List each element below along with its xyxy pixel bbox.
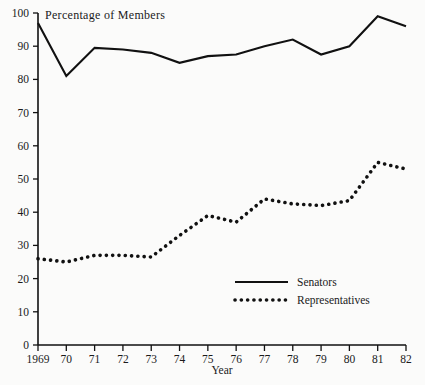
legend: Senators Representatives (235, 276, 370, 307)
x-tick-label: 71 (89, 353, 101, 365)
y-axis-ticks: 0102030405060708090100 (12, 7, 38, 351)
y-tick-label: 40 (18, 206, 30, 218)
series-line-representatives (38, 162, 406, 262)
x-tick-label: 74 (174, 353, 186, 365)
x-axis-ticks: 196970717273747576777879808182 (27, 345, 413, 365)
y-tick-label: 50 (18, 173, 30, 185)
y-tick-label: 90 (18, 40, 30, 52)
x-tick-label: 81 (372, 353, 384, 365)
y-tick-label: 100 (12, 7, 30, 19)
y-tick-label: 80 (18, 73, 30, 85)
legend-label-senators: Senators (297, 276, 337, 288)
y-tick-label: 30 (18, 239, 30, 251)
x-tick-label: 72 (117, 353, 129, 365)
x-tick-label: 79 (315, 353, 327, 365)
x-tick-label: 70 (61, 353, 73, 365)
chart-container: 0102030405060708090100 19697071727374757… (0, 0, 425, 385)
y-tick-label: 60 (18, 140, 30, 152)
y-tick-label: 0 (23, 339, 29, 351)
x-tick-label: 1969 (27, 353, 50, 365)
series-paths (38, 16, 406, 262)
x-axis-title: Year (211, 364, 232, 376)
legend-label-representatives: Representatives (297, 294, 370, 307)
y-tick-label: 10 (18, 306, 30, 318)
y-tick-label: 20 (18, 273, 30, 285)
y-tick-label: 70 (18, 107, 30, 119)
x-tick-label: 82 (400, 353, 412, 365)
page-title: Percentage of Members (45, 8, 165, 22)
x-tick-label: 77 (259, 353, 271, 365)
x-tick-label: 78 (287, 353, 299, 365)
series-line-senators (38, 16, 406, 76)
x-tick-label: 80 (344, 353, 356, 365)
x-tick-label: 73 (145, 353, 157, 365)
line-chart: 0102030405060708090100 19697071727374757… (0, 0, 425, 385)
